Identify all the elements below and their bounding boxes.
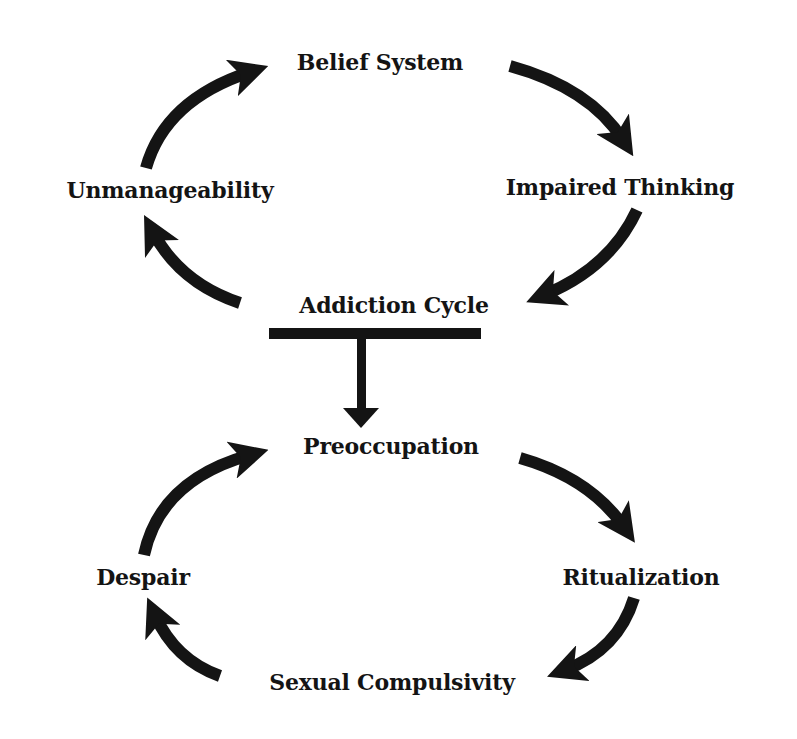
node-despair: Despair (96, 566, 190, 588)
node-unmanageability: Unmanageability (67, 179, 274, 201)
arrow-compulsivity-to-despair (155, 615, 220, 676)
arrow-preoccupation-to-ritualization (520, 458, 624, 527)
arrow-ritualization-to-compulsivity (565, 598, 634, 670)
addiction-cycle-diagram: Belief System Impaired Thinking Unmanage… (0, 0, 797, 739)
node-addiction-cycle: Addiction Cycle (299, 294, 488, 316)
arrows-layer (0, 0, 797, 739)
arrow-despair-to-preoccupation (144, 455, 250, 555)
node-ritualization: Ritualization (562, 566, 719, 588)
node-impaired-thinking: Impaired Thinking (506, 176, 735, 198)
arrow-addiction-to-unmanageability (153, 232, 240, 303)
t-bar-connector (269, 328, 481, 428)
node-preoccupation: Preoccupation (303, 435, 479, 457)
arrow-belief-to-impaired (510, 66, 623, 140)
node-belief-system: Belief System (297, 51, 463, 73)
arrow-unmanageability-to-belief (146, 72, 250, 168)
node-sexual-compulsivity: Sexual Compulsivity (269, 671, 515, 693)
arrow-impaired-to-addiction (544, 210, 637, 295)
